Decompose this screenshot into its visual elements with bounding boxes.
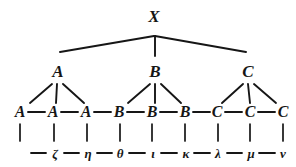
terminal-node-t4: θ (117, 146, 124, 161)
branch-node-group: ABC (51, 62, 254, 81)
leaf-node-group: AAABBBCCC (14, 103, 289, 120)
leaf-node-l8: C (245, 103, 256, 120)
branch-edge-group (30, 84, 276, 103)
leaf-node-l4: B (113, 103, 125, 120)
branch-edge-6 (222, 84, 243, 103)
leaf-drop-edge-group (20, 124, 283, 141)
branch-edge-7 (248, 84, 250, 103)
root-node-group: X (147, 7, 160, 26)
tree-diagram-figure: X ABC AAABBBCCC ζηθικλμν (0, 0, 296, 167)
branch-edge-1 (56, 84, 57, 103)
branch-node-c1: C (242, 62, 254, 81)
terminal-node-t2: ζ (52, 146, 59, 161)
root-edge-0 (60, 36, 154, 52)
branch-edge-5 (161, 84, 181, 103)
branch-edge-8 (254, 84, 276, 103)
leaf-node-l6: B (179, 103, 191, 120)
leaf-node-l9: C (278, 103, 289, 120)
branch-node-b1: B (148, 62, 160, 81)
terminal-node-t7: λ (214, 146, 221, 161)
root-edge-group (60, 36, 246, 56)
root-node-x: X (147, 7, 160, 26)
branch-edge-0 (30, 84, 52, 103)
root-edge-2 (155, 36, 246, 52)
leaf-node-l5: B (146, 103, 158, 120)
leaf-node-l3: A (80, 103, 92, 120)
branch-edge-3 (128, 84, 150, 103)
tree-diagram-canvas: X ABC AAABBBCCC ζηθικλμν (0, 0, 296, 167)
branch-edge-2 (63, 84, 84, 103)
terminal-node-t3: η (84, 146, 91, 161)
leaf-node-l7: C (212, 103, 223, 120)
branch-node-a1: A (51, 62, 63, 81)
leaf-node-l2: A (47, 103, 59, 120)
terminal-node-t6: κ (183, 146, 191, 161)
terminal-node-t9: ν (280, 146, 286, 161)
terminal-node-t8: μ (246, 146, 254, 161)
leaf-node-l1: A (14, 103, 26, 120)
terminal-node-t5: ι (151, 146, 155, 161)
